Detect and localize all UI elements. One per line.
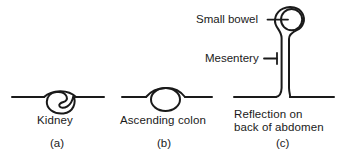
panel-a-caption: Kidney — [37, 114, 73, 128]
small-bowel-label: Small bowel — [196, 13, 258, 25]
mesentery-peritoneal-leaf — [275, 7, 304, 97]
ascending-colon-outline — [151, 88, 180, 111]
kidney-outline — [47, 92, 75, 114]
panel-b-colon-drawing — [122, 88, 212, 111]
panel-c-caption-line-2: back of abdomen — [234, 121, 324, 135]
panel-letter-b: (b) — [157, 137, 171, 149]
panel-c-caption-line-1: Reflection on — [234, 108, 302, 122]
panel-letter-a: (a) — [50, 137, 64, 149]
panel-letter-c: (c) — [276, 137, 289, 149]
panel-a-kidney-drawing — [12, 91, 104, 113]
panel-b-caption: Ascending colon — [120, 114, 206, 128]
anatomy-figure: Kidney Ascending colon Reflection on bac… — [0, 0, 351, 157]
mesentery-label: Mesentery — [205, 52, 259, 64]
